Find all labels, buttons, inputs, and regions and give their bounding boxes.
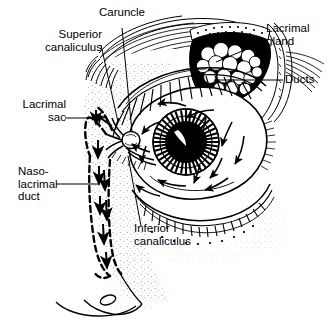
label-superior-canaliculus: Superior canaliculus bbox=[10, 28, 102, 53]
figure-lacrimal-apparatus: Caruncle Superior canaliculus Lacrimal s… bbox=[0, 0, 327, 326]
label-ducts: Ducts bbox=[285, 73, 327, 86]
label-lacrimal-gland: Lacrimal gland bbox=[266, 22, 326, 47]
pupil bbox=[165, 121, 207, 163]
lacrimal-caruncle bbox=[122, 132, 140, 149]
eyeball bbox=[129, 87, 267, 199]
label-nasolacrimal-duct: Naso- lacrimal duct bbox=[18, 165, 78, 203]
label-inferior-canaliculus: Inferior canaliculus bbox=[134, 222, 224, 247]
label-caruncle: Caruncle bbox=[82, 6, 162, 19]
label-lacrimal-sac: Lacrimal sac bbox=[0, 98, 66, 123]
